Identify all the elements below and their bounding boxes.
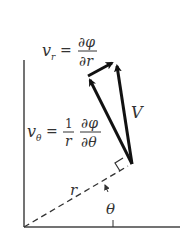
diagram-canvas: v r = ∂φ ∂r v θ = 1 r ∂φ ∂θ V r θ — [0, 0, 180, 250]
svg-text:r: r — [51, 52, 56, 62]
svg-text:r: r — [65, 133, 73, 149]
velocity-label: V — [131, 103, 144, 122]
svg-text:∂φ: ∂φ — [81, 115, 98, 131]
svg-text:1: 1 — [65, 117, 73, 131]
theta-arrow — [105, 185, 108, 192]
radius-label: r — [70, 181, 78, 199]
svg-text:θ: θ — [36, 133, 42, 143]
svg-text:v: v — [27, 122, 36, 141]
svg-text:=: = — [60, 42, 72, 58]
svg-text:∂r: ∂r — [79, 53, 94, 69]
svg-text:∂φ: ∂φ — [78, 34, 95, 50]
svg-text:∂θ: ∂θ — [81, 134, 97, 150]
svg-text:=: = — [46, 123, 58, 139]
theta-label: θ — [106, 200, 115, 218]
v-theta-label: v θ = 1 r ∂φ ∂θ — [27, 115, 101, 150]
v-r-label: v r = ∂φ ∂r — [42, 34, 97, 69]
svg-text:v: v — [42, 41, 51, 60]
